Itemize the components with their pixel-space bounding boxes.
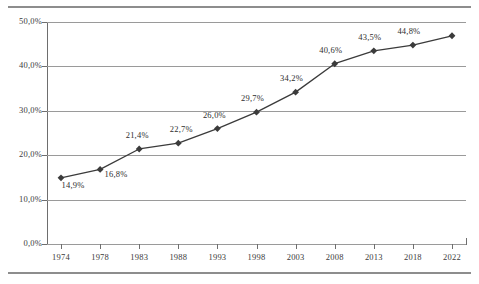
data-point-label: 40,6% [319, 45, 342, 55]
data-point-label: 29,7% [241, 93, 264, 103]
y-tick-mark [42, 66, 47, 67]
data-point-label: 22,7% [170, 124, 193, 134]
data-point-label: 16,8% [105, 169, 128, 179]
series-line-and-markers [0, 0, 479, 284]
data-point-marker [214, 125, 221, 132]
data-point-label: 44,8% [397, 26, 420, 36]
data-point-label: 43,5% [358, 32, 381, 42]
y-tick-mark [42, 244, 47, 245]
data-point-marker [175, 140, 182, 147]
data-point-label: 26,0% [203, 110, 226, 120]
series-marker-group [58, 32, 456, 181]
data-point-label: 34,2% [280, 73, 303, 83]
series-polyline [61, 36, 452, 178]
data-point-marker [253, 109, 260, 116]
data-point-label: 21,4% [126, 130, 149, 140]
y-tick-mark [42, 111, 47, 112]
data-point-marker [410, 42, 417, 49]
data-point-marker [370, 47, 377, 54]
data-point-marker [449, 32, 456, 39]
y-tick-mark [42, 155, 47, 156]
data-point-label: 14,9% [62, 180, 85, 190]
data-point-marker [136, 146, 143, 153]
y-tick-mark [42, 22, 47, 23]
y-tick-mark [42, 200, 47, 201]
chart-figure: 0,0%10,0%20,0%30,0%40,0%50,0% 1974197819… [0, 0, 479, 284]
data-point-marker [97, 166, 104, 173]
